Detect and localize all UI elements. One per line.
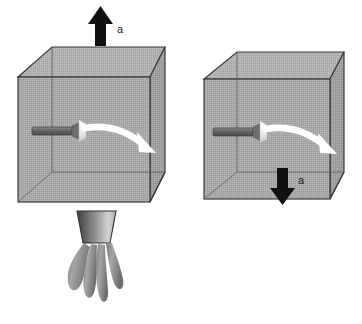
nozzle-body	[77, 211, 116, 243]
acceleration-label-left: a	[117, 23, 124, 35]
bolt-shaft	[32, 127, 72, 135]
acceleration-label-right: a	[298, 174, 305, 186]
bolt-shaft	[213, 128, 253, 136]
right-panel: a	[204, 52, 344, 205]
diagram-canvas: a a	[0, 0, 362, 324]
rocket-nozzle	[77, 211, 116, 243]
box-front-face	[18, 77, 150, 202]
physics-diagram: a a	[0, 0, 362, 324]
